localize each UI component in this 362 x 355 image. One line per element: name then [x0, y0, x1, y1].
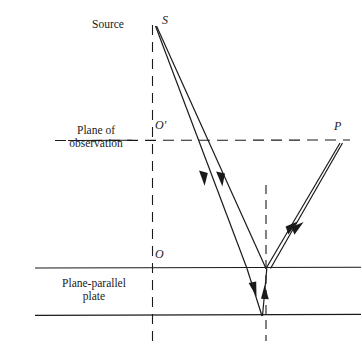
image-point-label: P	[334, 120, 341, 133]
plate-bottom-surface-line	[35, 314, 361, 315]
plate-top-surface-line	[35, 267, 361, 268]
incident-ray-1-arrowhead	[199, 171, 208, 186]
observation-point-label: O′	[155, 119, 166, 132]
optics-ray-diagram: Source S Plane of observation O′ P O Pla…	[0, 0, 362, 355]
plate-label-line1: Plane-parallel	[62, 277, 126, 289]
plane-of-observation-label: Plane of observation	[48, 124, 144, 150]
origin-point-label: O	[155, 248, 164, 261]
refracted-ray-down-arrowhead	[249, 282, 257, 297]
internal-reflected-ray-up-arrowhead	[261, 285, 269, 299]
incident-ray-1	[156, 26, 248, 269]
plate-label: Plane-parallel plate	[38, 277, 150, 303]
incident-ray-2	[157, 26, 267, 269]
incident-ray-2-arrowhead	[216, 172, 225, 187]
plate-label-line2: plate	[38, 290, 150, 303]
plane-of-observation-label-line2: observation	[48, 137, 144, 150]
plane-of-observation-label-line1: Plane of	[77, 124, 115, 136]
reflected-ray-to-P	[266, 143, 340, 269]
emergent-ray-to-P	[271, 143, 343, 269]
source-label: Source	[92, 18, 124, 31]
source-point-label: S	[162, 14, 168, 27]
